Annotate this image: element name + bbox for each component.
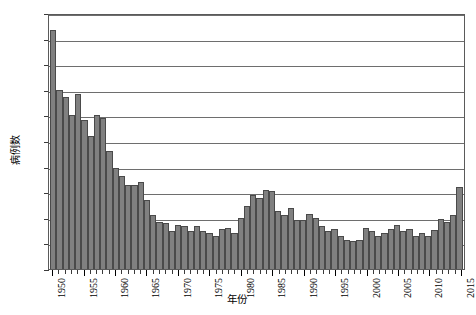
x-tick-mark [354, 270, 355, 274]
x-tick-mark [172, 270, 173, 274]
x-tick-mark [153, 270, 154, 274]
x-tick-mark [348, 270, 349, 274]
x-tick-mark [84, 270, 85, 276]
x-tick-mark [102, 270, 103, 274]
x-tick-mark [323, 270, 324, 274]
x-tick-mark [203, 270, 204, 274]
x-tick-mark [121, 270, 122, 274]
x-tick-mark [96, 270, 97, 274]
x-tick-mark [291, 270, 292, 274]
x-tick-mark [329, 270, 330, 274]
x-tick-mark [228, 270, 229, 274]
x-tick-mark [247, 270, 248, 274]
x-tick-mark [417, 270, 418, 274]
x-tick-mark [335, 270, 336, 276]
x-tick-mark [429, 270, 430, 276]
x-tick-mark [90, 270, 91, 274]
x-tick-mark [392, 270, 393, 274]
x-tick-mark [442, 270, 443, 274]
x-tick-mark [165, 270, 166, 274]
x-tick-mark [316, 270, 317, 274]
x-tick-mark [385, 270, 386, 274]
x-tick-mark [310, 270, 311, 274]
x-tick-mark [266, 270, 267, 274]
x-tick-mark [128, 270, 129, 274]
x-tick-mark [360, 270, 361, 274]
x-tick-mark [367, 270, 368, 276]
x-tick-mark [423, 270, 424, 274]
bar [456, 187, 462, 269]
x-tick-mark [190, 270, 191, 274]
x-tick-mark [65, 270, 66, 274]
x-tick-mark [411, 270, 412, 274]
x-tick-mark [140, 270, 141, 274]
x-tick-mark [146, 270, 147, 276]
x-tick-mark [216, 270, 217, 274]
x-tick-mark [297, 270, 298, 274]
x-tick-mark [159, 270, 160, 274]
x-tick-mark [52, 270, 53, 276]
x-tick-mark [304, 270, 305, 276]
y-axis-title: 病例数 [7, 120, 22, 180]
plot-area [48, 14, 465, 270]
x-tick-mark [436, 270, 437, 274]
x-tick-mark [109, 270, 110, 274]
bar-series [49, 15, 464, 269]
x-tick-mark [197, 270, 198, 274]
x-tick-mark [184, 270, 185, 274]
x-tick-mark [58, 270, 59, 274]
x-tick-mark [373, 270, 374, 274]
x-tick-mark [461, 270, 462, 276]
x-tick-mark [234, 270, 235, 274]
x-tick-mark [115, 270, 116, 276]
x-tick-mark [178, 270, 179, 276]
x-tick-mark [71, 270, 72, 274]
x-tick-mark [241, 270, 242, 276]
x-tick-mark [209, 270, 210, 276]
x-tick-mark [272, 270, 273, 276]
x-tick-mark [260, 270, 261, 274]
x-tick-mark [404, 270, 405, 274]
x-tick-mark [134, 270, 135, 274]
x-tick-mark [448, 270, 449, 274]
x-tick-mark [285, 270, 286, 274]
x-tick-mark [398, 270, 399, 276]
x-axis-title: 年份 [0, 291, 474, 306]
x-tick-mark [77, 270, 78, 274]
x-tick-mark [222, 270, 223, 274]
x-tick-mark [341, 270, 342, 274]
y-axis: 病例数 01002003004005006007008009001000 [0, 0, 48, 315]
x-tick-mark [379, 270, 380, 274]
x-tick-mark [253, 270, 254, 274]
x-tick-mark [455, 270, 456, 274]
x-tick-mark [279, 270, 280, 274]
